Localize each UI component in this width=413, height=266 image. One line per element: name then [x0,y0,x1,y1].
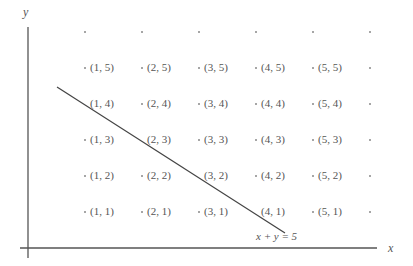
point-label: (2, 1) [147,206,171,217]
point-dot [84,139,86,141]
point-label: (3, 2) [204,170,228,181]
point-dot [312,67,314,69]
point-dot [141,211,143,213]
point-label: (1, 5) [90,62,114,73]
y-axis-label: y [23,5,28,20]
line-equation-label: x + y = 5 [256,230,297,242]
point-dot [198,103,200,105]
point-label: (3, 3) [204,134,228,145]
point-label: (2, 4) [147,98,171,109]
point-label: (1, 1) [90,206,114,217]
point-label: (2, 5) [147,62,171,73]
continuation-dot [369,103,371,105]
point-dot [84,67,86,69]
continuation-dot [84,31,86,33]
point-label: (1, 4) [90,98,114,109]
point-dot [141,67,143,69]
point-label: (4, 3) [261,134,285,145]
point-dot [312,139,314,141]
point-label: (5, 1) [318,206,342,217]
point-label: (3, 1) [204,206,228,217]
point-dot [255,175,257,177]
point-label: (3, 5) [204,62,228,73]
point-dot [84,175,86,177]
point-dot [312,211,314,213]
continuation-dot [312,31,314,33]
point-label: (4, 2) [261,170,285,181]
point-dot [141,175,143,177]
point-label: (5, 5) [318,62,342,73]
point-label: (5, 4) [318,98,342,109]
continuation-dot [369,211,371,213]
point-label: (1, 2) [90,170,114,181]
point-dot [255,67,257,69]
point-dot [312,103,314,105]
continuation-dot [255,31,257,33]
continuation-dot [369,67,371,69]
x-axis-label: x [388,241,393,256]
continuation-dot [369,31,371,33]
continuation-dot [369,139,371,141]
point-dot [84,211,86,213]
point-label: (5, 3) [318,134,342,145]
point-label: (3, 4) [204,98,228,109]
point-label: (4, 4) [261,98,285,109]
continuation-dot [141,31,143,33]
point-label: (1, 3) [90,134,114,145]
continuation-dot [369,175,371,177]
point-dot [141,103,143,105]
point-label: (4, 5) [261,62,285,73]
point-dot [255,139,257,141]
point-dot [198,67,200,69]
point-dot [198,211,200,213]
continuation-dot [198,31,200,33]
point-dot [312,175,314,177]
point-label: (5, 2) [318,170,342,181]
point-label: (2, 2) [147,170,171,181]
point-dot [198,139,200,141]
point-dot [255,103,257,105]
point-label: (2, 3) [147,134,171,145]
point-label: (4, 1) [261,206,285,217]
